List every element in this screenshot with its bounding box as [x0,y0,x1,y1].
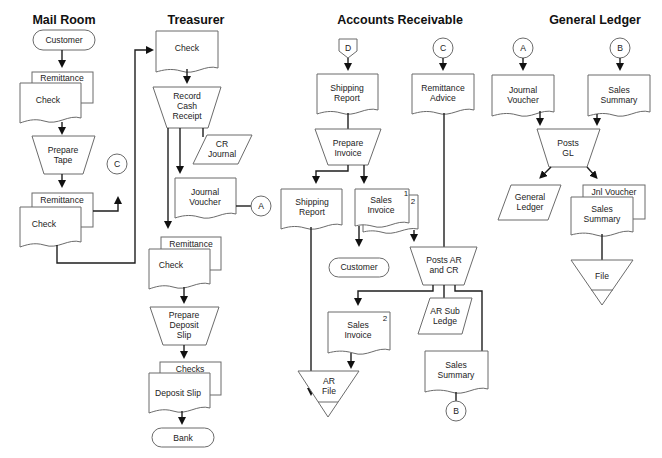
svg-text:Jnl Voucher: Jnl Voucher [592,187,637,197]
svg-text:2: 2 [411,197,416,206]
document-journal-voucher: Journal Voucher [175,178,236,218]
svg-text:Deposit: Deposit [169,320,199,330]
svg-text:Sales: Sales [591,204,613,214]
process-posts-gl: Posts GL [537,129,600,167]
svg-text:Customer: Customer [340,262,377,272]
flow-arrow [587,167,595,176]
cash-receipts-flowchart: Mail Room Treasurer Accounts Receivable … [0,0,662,458]
svg-text:Cash: Cash [177,101,197,111]
svg-text:Report: Report [299,207,325,217]
terminal-customer-ar: Customer [329,258,389,277]
svg-text:Remittance: Remittance [40,73,84,83]
svg-text:Sales: Sales [370,195,392,205]
svg-text:Prepare: Prepare [333,138,364,148]
svg-text:B: B [617,43,623,53]
process-prepare-deposit-slip: Prepare Deposit Slip [150,307,219,345]
connector-c-mailroom: C [107,154,127,174]
svg-text:Prepare: Prepare [169,310,200,320]
svg-text:Journal: Journal [208,149,236,159]
svg-text:Slip: Slip [177,330,192,340]
svg-text:Customer: Customer [45,35,82,45]
svg-text:File: File [322,386,336,396]
svg-text:AR Sub: AR Sub [430,306,460,316]
svg-text:Journal: Journal [509,85,537,95]
svg-text:Remittance: Remittance [169,239,213,249]
svg-text:C: C [440,43,446,53]
flow-arrow [358,285,433,302]
svg-text:Remittance: Remittance [40,195,84,205]
svg-text:Invoice: Invoice [367,205,394,215]
document-jnl-voucher-sales-summary: Jnl Voucher Sales Summary [571,185,645,236]
journal-general-ledger: General Ledger [498,185,561,220]
svg-text:Check: Check [32,219,57,229]
terminal-bank: Bank [152,428,214,447]
document-deposit-slip: Checks Deposit Slip [149,362,221,413]
svg-text:and CR: and CR [429,265,458,275]
document-sales-summary-ar: Sales Summary [425,351,488,393]
document-check-treasurer: Check [156,31,218,72]
connector-a-treasurer: A [251,196,271,216]
svg-text:D: D [345,43,351,53]
document-remittance-check-treasurer: Remittance Check [149,237,221,289]
svg-text:Check: Check [159,260,184,270]
journal-cr-journal: CR Journal [193,135,252,164]
svg-text:Remittance: Remittance [421,83,465,93]
flow-arrow [316,165,348,180]
svg-text:A: A [520,43,526,53]
svg-text:Posts: Posts [557,138,579,148]
svg-text:Deposit Slip: Deposit Slip [155,388,201,398]
svg-text:Bank: Bank [173,433,193,443]
svg-text:GL: GL [562,148,574,158]
svg-text:C: C [114,159,120,169]
svg-text:File: File [595,271,609,281]
connector-b-ar: B [446,401,466,421]
header-treasurer: Treasurer [168,13,225,27]
svg-text:Ledger: Ledger [517,202,544,212]
document-journal-voucher-gl: Journal Voucher [492,75,554,116]
header-accounts-receivable: Accounts Receivable [337,13,463,27]
svg-text:Check: Check [175,43,200,53]
svg-text:Shipping: Shipping [295,197,329,207]
flowchart-canvas: Mail Room Treasurer Accounts Receivable … [0,0,662,458]
document-remittance-check-2: Remittance Check [20,193,93,247]
svg-text:1: 1 [404,189,409,198]
svg-text:Voucher: Voucher [189,197,221,207]
svg-text:Summary: Summary [584,214,621,224]
document-sales-invoice-copy2: 2 Sales Invoice [328,312,390,354]
connector-c-ar: C [433,38,453,58]
document-sales-summary-gl: Sales Summary [588,75,650,116]
svg-text:General: General [515,192,546,202]
offpage-connector-d: D [339,39,357,58]
svg-text:Check: Check [36,95,61,105]
process-posts-ar-and-cr: Posts AR and CR [410,247,477,285]
header-general-ledger: General Ledger [549,13,641,27]
process-prepare-tape: Prepare Tape [32,136,95,174]
svg-text:Summary: Summary [438,370,475,380]
svg-text:Advice: Advice [430,93,456,103]
document-shipping-report-top: Shipping Report [317,74,378,114]
svg-text:Invoice: Invoice [344,330,371,340]
svg-text:Ledge: Ledge [433,316,457,326]
document-shipping-report: Shipping Report [281,189,342,229]
process-prepare-invoice: Prepare Invoice [315,129,381,165]
svg-text:Summary: Summary [601,95,638,105]
svg-text:A: A [258,201,264,211]
document-remittance-advice: Remittance Advice [412,74,474,114]
terminal-customer: Customer [33,30,95,50]
svg-text:Sales: Sales [347,320,369,330]
svg-text:Posts AR: Posts AR [426,255,461,265]
flow-arrow [542,167,551,176]
connector-a-gl: A [513,38,533,58]
svg-text:Report: Report [334,93,360,103]
document-sales-invoice-copies: 2 1 Sales Invoice [355,189,418,233]
svg-text:AR: AR [323,376,335,386]
process-record-cash-receipt: Record Cash Receipt [153,87,221,128]
svg-text:Sales: Sales [608,85,630,95]
svg-text:Sales: Sales [445,360,467,370]
svg-text:Record: Record [173,91,201,101]
svg-text:CR: CR [216,139,228,149]
flow-arrow-to-c [93,200,118,211]
svg-text:2: 2 [383,314,388,323]
svg-text:Invoice: Invoice [334,148,361,158]
svg-text:Prepare: Prepare [48,145,79,155]
